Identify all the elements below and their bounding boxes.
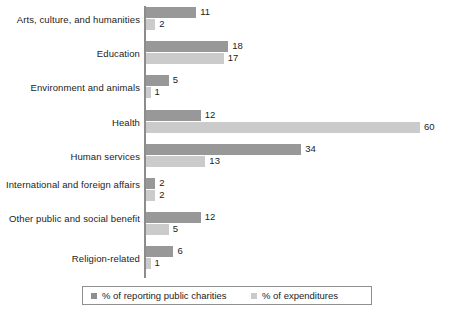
bar-chart: Arts, culture, and humanities 11 2 Educa… xyxy=(0,0,457,321)
bar-value-label: 1 xyxy=(155,86,160,98)
bar-value-label: 17 xyxy=(228,52,239,64)
bar-value-label: 12 xyxy=(205,109,216,121)
category-label: Environment and animals xyxy=(0,82,140,93)
bar-series-1 xyxy=(146,53,224,64)
bar-series-1 xyxy=(146,190,155,201)
bar-series-0 xyxy=(146,246,173,257)
category-label: Human services xyxy=(0,151,140,162)
category-group-environment-and-animals: Environment and animals 5 1 xyxy=(0,74,457,102)
bar-value-label: 13 xyxy=(209,155,220,167)
bar-series-0 xyxy=(146,7,196,18)
bar-series-1 xyxy=(146,122,420,133)
bar-value-label: 11 xyxy=(200,6,210,18)
category-group-education: Education 18 17 xyxy=(0,40,457,68)
legend-swatch-icon xyxy=(91,293,97,299)
bar-value-label: 12 xyxy=(205,211,216,223)
bar-series-1 xyxy=(146,19,155,30)
category-group-human-services: Human services 34 13 xyxy=(0,143,457,171)
bar-value-label: 1 xyxy=(155,257,160,269)
bar-series-0 xyxy=(146,144,301,155)
bar-series-1 xyxy=(146,156,205,167)
bar-value-label: 2 xyxy=(159,18,164,30)
legend-swatch-icon xyxy=(251,293,257,299)
category-group-arts-culture-and-humanities: Arts, culture, and humanities 11 2 xyxy=(0,6,457,34)
category-label: International and foreign affairs xyxy=(0,179,140,190)
bar-series-0 xyxy=(146,41,228,52)
bar-value-label: 5 xyxy=(173,74,178,86)
legend-label: % of reporting public charities xyxy=(102,290,227,302)
bar-value-label: 18 xyxy=(232,40,243,52)
category-group-religion-related: Religion-related 6 1 xyxy=(0,245,457,273)
category-group-health: Health 12 60 xyxy=(0,109,457,137)
bar-value-label: 6 xyxy=(177,245,182,257)
bar-series-1 xyxy=(146,224,169,235)
plot-area: Arts, culture, and humanities 11 2 Educa… xyxy=(0,0,457,280)
bar-series-1 xyxy=(146,258,151,269)
legend-entry-expenditures: % of expenditures xyxy=(251,289,338,303)
category-label: Health xyxy=(0,117,140,128)
bar-series-0 xyxy=(146,75,169,86)
bar-value-label: 34 xyxy=(305,143,316,155)
bar-value-label: 2 xyxy=(159,189,164,201)
category-label: Religion-related xyxy=(0,253,140,264)
category-group-other-public-and-social-benefit: Other public and social benefit 12 5 xyxy=(0,211,457,239)
bar-series-0 xyxy=(146,212,201,223)
bar-series-0 xyxy=(146,110,201,121)
category-label: Education xyxy=(0,48,140,59)
bar-value-label: 2 xyxy=(159,177,164,189)
bar-value-label: 60 xyxy=(424,121,435,133)
bar-value-label: 5 xyxy=(173,223,178,235)
category-label: Other public and social benefit xyxy=(0,213,140,224)
category-label: Arts, culture, and humanities xyxy=(0,14,140,25)
legend-entry-reporting-public-charities: % of reporting public charities xyxy=(91,289,227,303)
bar-series-1 xyxy=(146,87,151,98)
legend-label: % of expenditures xyxy=(262,290,338,302)
category-group-international-and-foreign-affairs: International and foreign affairs 2 2 xyxy=(0,177,457,205)
chart-legend: % of reporting public charities % of exp… xyxy=(82,286,372,305)
bar-series-0 xyxy=(146,178,155,189)
